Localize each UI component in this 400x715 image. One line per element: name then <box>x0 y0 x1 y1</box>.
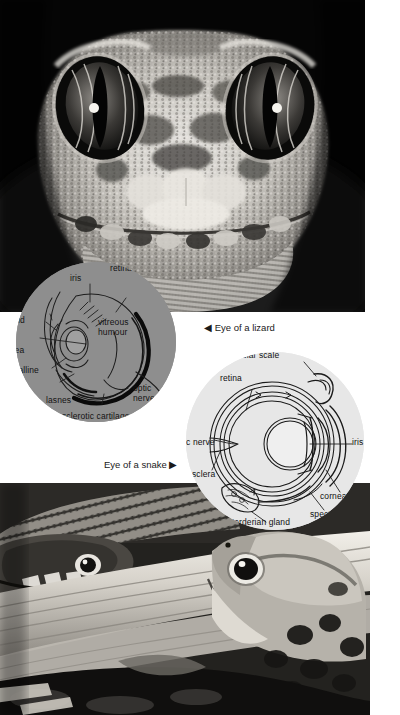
label-supra-ocular-scale-snake: supra-ocular scale <box>208 352 279 361</box>
label-eyelid-lizard: eyelid <box>16 316 25 326</box>
diagram-snake-eye: supra-ocular scale retina iris optic ner… <box>186 352 364 530</box>
label-sclerotic-cartilage-lizard: sclerotic cartilage <box>62 412 130 422</box>
label-retina-snake: retina <box>220 374 242 384</box>
label-retina-lizard: retina <box>110 264 132 274</box>
label-optic-nerve-lizard: optic nerve <box>133 384 155 403</box>
label-optic-nerve-snake: optic nerve <box>186 438 215 448</box>
label-cornea-lizard: ornea <box>16 346 24 356</box>
caption-eye-of-a-lizard: ◀ Eye of a lizard <box>204 322 275 333</box>
label-vitreous-humour-lizard: vitreous humour <box>98 318 129 337</box>
lizard-photo-artwork <box>0 0 365 312</box>
photo-lizard-head <box>0 0 365 312</box>
page-root: retina iris eyelid vitreous humour ornea… <box>0 0 400 715</box>
label-iris-lizard: iris <box>70 274 81 284</box>
label-spectacle-snake: spectacle <box>310 510 347 520</box>
diagram-lizard-eye: retina iris eyelid vitreous humour ornea… <box>16 262 176 422</box>
label-crystalline-lens-lizard: crystalline lens <box>16 366 39 385</box>
label-lasnes-lizard: lasnes <box>46 396 71 406</box>
label-harderian-gland-snake: Harderian gland <box>228 518 290 528</box>
label-sclera-snake: sclera <box>192 470 215 480</box>
label-iris-snake: iris <box>352 438 363 448</box>
caption-eye-of-a-snake: Eye of a snake ▶ <box>104 459 177 470</box>
label-cornea-snake: cornea <box>320 492 347 502</box>
